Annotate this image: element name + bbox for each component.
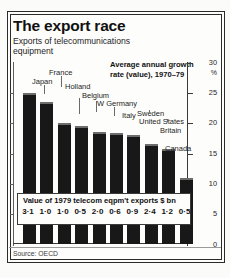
y-axis-tick [188, 123, 193, 124]
country-label-japan: Japan [32, 78, 52, 86]
left-axis-tick [10, 214, 14, 215]
value-number: 1·2 [158, 207, 176, 216]
value-callout-box: Value of 1979 telecom eqpm't exports $ b… [17, 193, 191, 225]
country-label-italy: Italy [122, 112, 136, 120]
chart-subtitle: Exports of telecommunications equipment [13, 36, 163, 57]
y-axis-tick [188, 154, 193, 155]
y-axis-tick [188, 93, 193, 94]
bar-w-germany [93, 132, 106, 244]
country-label-canada: Canada [165, 145, 191, 153]
value-callout-label: Value of 1979 telecom eqpm't exports $ b… [23, 196, 176, 205]
left-axis-tick [10, 123, 14, 124]
left-axis-tick [10, 154, 14, 155]
value-number: 1·0 [36, 207, 54, 216]
bar-holland [58, 123, 71, 244]
leader-line [61, 76, 62, 87]
chart-screenshot: The export race Exports of telecommunica… [0, 0, 230, 278]
left-axis-tick [10, 93, 14, 94]
country-label-united-states: United States [139, 118, 184, 126]
y-axis-tick-label: 25 [209, 89, 217, 96]
y-axis-tick-label: 30 [209, 59, 217, 66]
value-number: 0·9 [123, 207, 141, 216]
bar-sweden [127, 135, 140, 244]
value-number: 1·0 [54, 207, 72, 216]
y-axis-tick [188, 63, 193, 64]
y-axis-tick-label: 5 [213, 210, 217, 217]
growth-rate-annotation: Average annual growth rate (value), 1970… [110, 60, 194, 80]
country-label-w-germany: W Germany [97, 100, 137, 108]
country-label-britain: Britain [160, 127, 181, 135]
bar-belgium [75, 126, 88, 244]
value-number: 0·6 [106, 207, 124, 216]
leader-line [149, 110, 150, 112]
value-number: 0·5 [71, 207, 89, 216]
leader-line [79, 98, 80, 114]
value-number: 0·5 [176, 207, 194, 216]
left-axis-tick [10, 184, 14, 185]
y-axis-unit: % [211, 69, 217, 76]
y-axis-tick-label: 10 [209, 180, 217, 187]
source-divider [9, 247, 221, 248]
page-title: The export race [13, 18, 125, 34]
y-axis-tick-label: 15 [209, 150, 217, 157]
y-axis-tick-label: 20 [209, 119, 217, 126]
value-number: 2·0 [89, 207, 107, 216]
value-number: 3·1 [19, 207, 37, 216]
plot-area: Average annual growth rate (value), 1970… [13, 60, 201, 248]
leader-line [114, 107, 115, 116]
leader-line [167, 119, 168, 122]
bar-italy [110, 133, 123, 244]
value-number: 2·4 [141, 207, 159, 216]
country-label-holland: Holland [65, 83, 90, 91]
leader-line [44, 85, 45, 94]
source-note: Source: OECD [13, 250, 58, 257]
